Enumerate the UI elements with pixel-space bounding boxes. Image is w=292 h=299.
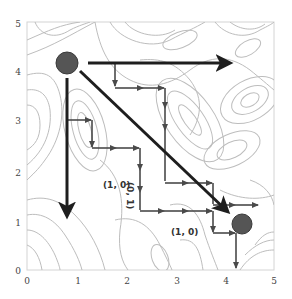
figure: (1, 0) (0, 1) (1, 0) 0 1 2 3 4 5 0 1 2 3…	[0, 0, 292, 299]
x-tick-label: 4	[223, 276, 229, 286]
x-tick-label: 1	[75, 276, 81, 286]
y-tick-label: 2	[15, 168, 21, 178]
step-label-1-0-lower: (1, 0)	[171, 227, 198, 237]
y-tick-label: 3	[15, 116, 21, 126]
x-axis: 0 1 2 3 4 5	[24, 276, 277, 286]
plot-canvas: (1, 0) (0, 1) (1, 0) 0 1 2 3 4 5 0 1 2 3…	[0, 0, 292, 299]
y-tick-label: 5	[15, 19, 21, 29]
step-label-0-1: (0, 1)	[125, 182, 135, 209]
y-tick-label: 1	[15, 218, 21, 228]
goal-point	[232, 214, 252, 234]
x-tick-label: 0	[24, 276, 30, 286]
x-tick-label: 3	[174, 276, 180, 286]
y-tick-label: 4	[15, 67, 21, 77]
x-tick-label: 5	[271, 276, 277, 286]
start-point	[56, 52, 78, 74]
y-tick-label: 0	[15, 266, 21, 276]
x-tick-label: 2	[124, 276, 130, 286]
y-axis: 0 1 2 3 4 5	[15, 19, 21, 276]
